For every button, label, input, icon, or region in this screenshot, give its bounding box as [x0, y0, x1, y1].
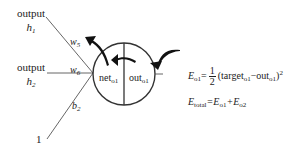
input-label-h1: output h1	[16, 8, 46, 33]
edge-bias	[47, 73, 93, 139]
weight-b2: b2	[72, 100, 81, 111]
weight-w5: w5	[70, 36, 80, 47]
input-label-bias: 1	[36, 134, 42, 145]
arrowhead-icon	[150, 61, 162, 70]
backprop-arrow-icon	[91, 40, 109, 66]
equation-error-total: Etotal=Eo1+Eo2	[188, 96, 246, 107]
equation-error-o1: Eo1=12(targeto1−outo1)2	[188, 66, 283, 87]
weight-w6: w6	[70, 64, 80, 75]
fraction-half: 12	[209, 66, 216, 87]
backprop-arrow-icon	[116, 57, 136, 63]
neuron-net-label: neto1	[99, 72, 118, 83]
arrowhead-icon	[85, 36, 96, 46]
arrowhead-icon	[111, 54, 118, 66]
input-label-h2: output h2	[16, 62, 46, 87]
neuron-out-label: outo1	[129, 72, 149, 83]
